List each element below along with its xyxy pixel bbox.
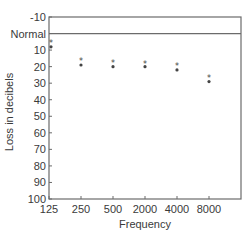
y-tick-label: 60	[34, 127, 46, 139]
y-tick-label: 70	[34, 143, 46, 155]
y-tick-label: 90	[34, 176, 46, 188]
y-axis: -10Normal102030405060708090100	[11, 11, 52, 205]
y-tick-label: 40	[34, 94, 46, 106]
x-tick-label: 125	[40, 203, 58, 215]
data-markers: ******	[49, 39, 211, 83]
x-axis-title: Frequency	[119, 218, 171, 230]
x-tick-label: 8000	[197, 203, 221, 215]
y-tick-label: 80	[34, 160, 46, 172]
x-tick-label: 2000	[133, 203, 157, 215]
x-tick-label: 250	[72, 203, 90, 215]
y-tick-label: 10	[34, 44, 46, 56]
y-tick-label: 50	[34, 110, 46, 122]
y-axis-title: Loss in decibels	[3, 72, 15, 151]
dot-marker	[111, 65, 114, 68]
dot-marker	[79, 63, 82, 66]
dot-marker	[143, 65, 146, 68]
dot-marker	[207, 80, 210, 83]
audiogram-chart: -10Normal102030405060708090100 125250500…	[0, 0, 250, 239]
y-tick-label: 20	[34, 61, 46, 73]
dot-marker	[49, 45, 52, 48]
y-tick-label: 30	[34, 77, 46, 89]
plot-border	[49, 17, 241, 199]
x-tick-label: 500	[104, 203, 122, 215]
plot-frame	[49, 17, 241, 199]
dot-marker	[175, 68, 178, 71]
y-tick-label: Normal	[11, 28, 46, 40]
x-tick-label: 4000	[165, 203, 189, 215]
y-tick-label: -10	[30, 11, 46, 23]
